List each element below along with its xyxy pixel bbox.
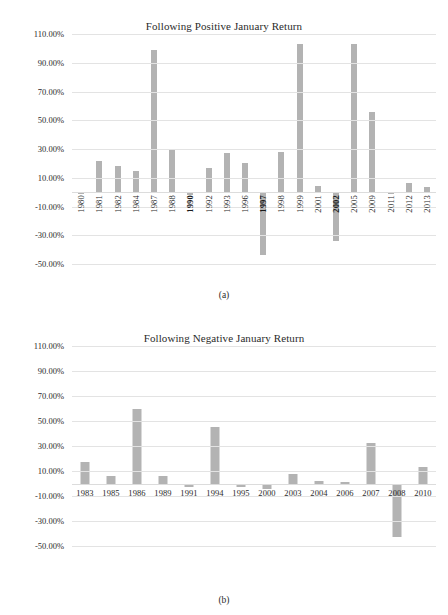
- x-axis-tick: 2008: [384, 488, 410, 502]
- gridline: [72, 521, 436, 522]
- x-axis-tick-label: 1994: [206, 488, 223, 498]
- x-axis-tick-label: 1985: [102, 488, 119, 498]
- x-axis-tick-label: 1990: [185, 195, 195, 213]
- x-axis-tick-label: 2003: [284, 488, 301, 498]
- y-axis-tick-label: -50.00%: [4, 259, 64, 269]
- bar: [96, 161, 102, 192]
- x-axis-tick-label: 2010: [414, 488, 431, 498]
- chart-title-a: Following Positive January Return: [0, 0, 448, 34]
- x-axis-tick: 1994: [202, 488, 228, 502]
- bar: [81, 462, 90, 484]
- x-axis-tick: 2013: [418, 195, 436, 245]
- x-axis-tick: 1998: [272, 195, 290, 245]
- bar: [297, 44, 303, 192]
- bar: [419, 467, 428, 483]
- x-axis-tick-label: 1988: [167, 195, 177, 213]
- y-axis-tick-label: 30.00%: [4, 144, 64, 154]
- gridline: [72, 421, 436, 422]
- bar: [351, 44, 357, 192]
- bar: [406, 183, 412, 192]
- x-axis-tick-label: 2012: [404, 195, 414, 213]
- x-axis-tick: 1984: [127, 195, 145, 245]
- y-axis-tick-label: 30.00%: [4, 441, 64, 451]
- figure-caption-a: (a): [0, 290, 448, 300]
- x-axis-tick-label: 1981: [94, 195, 104, 213]
- y-axis-tick-label: 50.00%: [4, 416, 64, 426]
- figure-b: Following Negative January Return 110.00…: [0, 310, 448, 615]
- x-axis-tick: 2005: [345, 195, 363, 245]
- gridline: [72, 396, 436, 397]
- x-axis-tick: 1989: [150, 488, 176, 502]
- x-axis-tick-label: 2007: [362, 488, 379, 498]
- x-axis-tick: 1985: [98, 488, 124, 502]
- gridline: [72, 346, 436, 347]
- bar: [367, 443, 376, 484]
- x-axis-tick: 2006: [332, 488, 358, 502]
- x-axis-tick: 1988: [163, 195, 181, 245]
- plot-area-b: 110.00%90.00%70.00%50.00%30.00%10.00%-10…: [0, 346, 448, 546]
- bar: [169, 150, 175, 192]
- x-axis-tick-label: 1984: [131, 195, 141, 213]
- x-axis-tick: 2009: [363, 195, 381, 245]
- x-axis-tick-label: 2001: [313, 195, 323, 213]
- y-axis-tick-label: 10.00%: [4, 173, 64, 183]
- x-axis-tick: 1993: [218, 195, 236, 245]
- x-axis-tick: 1982: [108, 195, 126, 245]
- x-axis-tick: 2012: [400, 195, 418, 245]
- x-axis-tick: 1980: [72, 195, 90, 245]
- gridline: [72, 446, 436, 447]
- gridline: [72, 264, 436, 265]
- x-axis-tick-label: 1982: [113, 195, 123, 213]
- x-axis-labels-a: 1980198119821984198719881990199219931996…: [72, 195, 436, 245]
- x-axis-tick: 1997: [254, 195, 272, 245]
- gridline: [72, 178, 436, 179]
- x-axis-tick: 2002: [327, 195, 345, 245]
- x-axis-tick: 2011: [381, 195, 399, 245]
- x-axis-tick-label: 1983: [76, 488, 93, 498]
- x-axis-tick: 2001: [309, 195, 327, 245]
- x-axis-tick-label: 2002: [331, 195, 341, 213]
- x-axis-tick-label: 1997: [258, 195, 268, 213]
- x-axis-tick: 2004: [306, 488, 332, 502]
- x-axis-tick: 1987: [145, 195, 163, 245]
- x-axis-tick: 1999: [290, 195, 308, 245]
- x-axis-tick-label: 1996: [240, 195, 250, 213]
- y-axis-tick-label: 70.00%: [4, 87, 64, 97]
- chart-title-b: Following Negative January Return: [0, 310, 448, 346]
- y-axis-tick-label: -50.00%: [4, 541, 64, 551]
- y-axis-tick-label: 10.00%: [4, 466, 64, 476]
- bar: [115, 166, 121, 193]
- x-axis-tick-label: 2008: [388, 488, 405, 498]
- gridline: [72, 120, 436, 121]
- y-axis-tick-label: 110.00%: [4, 341, 64, 351]
- figure-a: Following Positive January Return 110.00…: [0, 0, 448, 310]
- x-axis-labels-b: 1983198519861989199119941995200020032004…: [72, 488, 436, 502]
- bar: [278, 152, 284, 192]
- x-axis-tick-label: 1992: [204, 195, 214, 213]
- bar: [211, 427, 220, 484]
- gridline: [72, 34, 436, 35]
- y-axis-tick-label: 90.00%: [4, 58, 64, 68]
- y-axis-tick-label: -10.00%: [4, 202, 64, 212]
- y-axis-tick-label: 70.00%: [4, 391, 64, 401]
- gridline: [72, 471, 436, 472]
- x-axis-tick-label: 2005: [349, 195, 359, 213]
- x-axis-tick: 2003: [280, 488, 306, 502]
- x-axis-tick: 1981: [90, 195, 108, 245]
- x-axis-tick: 1991: [176, 488, 202, 502]
- y-axis-tick-label: 90.00%: [4, 366, 64, 376]
- bar: [206, 168, 212, 192]
- x-axis-tick: 1983: [72, 488, 98, 502]
- x-axis-tick: 1996: [236, 195, 254, 245]
- gridline: [72, 149, 436, 150]
- x-axis-tick: 2010: [410, 488, 436, 502]
- gridline: [72, 63, 436, 64]
- y-axis-labels-a: 110.00%90.00%70.00%50.00%30.00%10.00%-10…: [0, 34, 68, 264]
- x-axis-tick-label: 2004: [310, 488, 327, 498]
- x-axis-tick-label: 2009: [367, 195, 377, 213]
- y-axis-tick-label: 50.00%: [4, 115, 64, 125]
- x-axis-tick: 1986: [124, 488, 150, 502]
- bar: [224, 153, 230, 192]
- x-axis-tick-label: 2006: [336, 488, 353, 498]
- x-axis-tick-label: 2011: [386, 195, 396, 213]
